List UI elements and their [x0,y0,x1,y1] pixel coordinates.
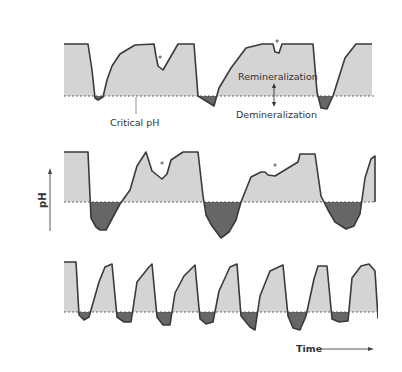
demineralization-label: Demineralization [236,109,317,120]
asterisk-marker: * [158,55,162,64]
remineralization-label: Remineralization [238,71,318,82]
x-axis-label: Time [296,343,322,354]
ph-diagram: **** Critical pH Remineralization Demine… [0,0,402,372]
y-axis-arrow-icon [48,168,52,231]
asterisk-marker: * [275,39,279,48]
panel-3 [64,262,402,330]
y-axis-label: pH [37,192,48,208]
asterisk-marker: * [160,161,164,170]
panel-2 [64,152,375,238]
asterisk-marker: * [273,163,277,172]
demineralization-area [64,152,375,238]
critical-ph-label: Critical pH [110,117,159,128]
panel-1 [64,44,375,109]
x-axis-arrow-icon [322,347,374,351]
